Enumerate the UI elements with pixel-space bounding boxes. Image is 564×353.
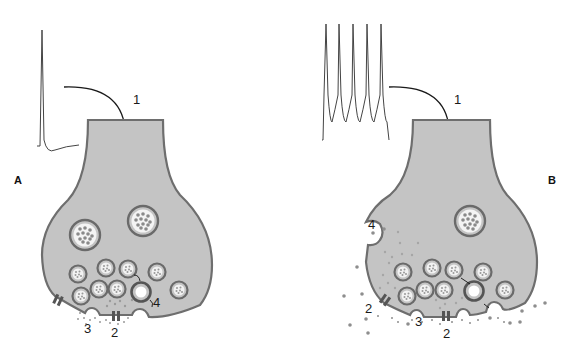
label-1: 1 [454,92,461,107]
panel-a: 1 4 3 2 A [14,30,212,340]
synaptic-release-diagram: 1 4 3 2 A [0,0,564,353]
label-4: 4 [368,217,375,232]
label-4: 4 [153,295,160,310]
panel-label-b: B [548,174,556,186]
label-2-bottom: 2 [443,326,450,341]
label-2-left: 2 [365,301,372,316]
panel-label-a: A [14,174,22,186]
panel-b: 1 [322,24,556,341]
spike-train-trace [322,24,389,140]
label-1: 1 [133,92,140,107]
action-potential-trace [37,30,79,151]
label-3: 3 [415,314,422,329]
label-2: 2 [111,325,118,340]
label-3: 3 [84,321,91,336]
